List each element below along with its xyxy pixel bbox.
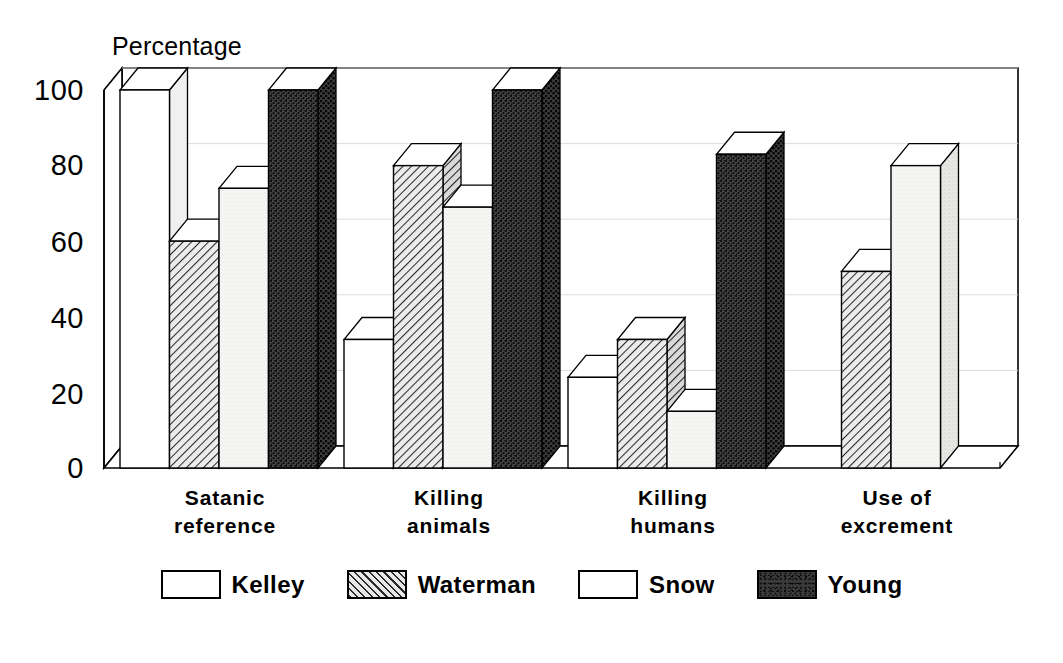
legend-swatch-kelley-icon [161,570,221,599]
bar-young-group-1 [269,68,337,468]
bar-young-group-2 [493,68,561,468]
legend-label-snow: Snow [649,571,715,599]
bar-chart: Percentage 100 80 60 40 20 0 [0,0,1063,663]
legend-label-waterman: Waterman [418,571,536,599]
x-axis-label-line2: animals [319,512,579,540]
legend-swatch-young-icon [757,570,817,599]
x-axis-label-line1: Killing [319,484,579,512]
legend-swatch-waterman-icon [347,570,407,599]
legend-item-young[interactable]: Young [757,570,903,599]
x-axis-label-line1: Killing [543,484,803,512]
bar-snow-group-4 [891,144,959,468]
legend-label-kelley: Kelley [232,571,305,599]
legend-label-young: Young [828,571,903,599]
legend-item-kelley[interactable]: Kelley [161,570,305,599]
legend-swatch-snow-icon [578,570,638,599]
bar-young-group-3 [717,132,785,468]
x-axis-label-line2: excrement [767,512,1027,540]
x-axis-label-3: Killinghumans [543,484,803,539]
plot-area [0,0,1063,663]
x-axis-label-line2: reference [95,512,355,540]
x-axis-label-2: Killinganimals [319,484,579,539]
x-axis-label-line1: Satanic [95,484,355,512]
x-axis-label-line2: humans [543,512,803,540]
x-axis-label-4: Use ofexcrement [767,484,1027,539]
chart-legend: Kelley Waterman Snow Young [0,570,1063,599]
x-axis-label-1: Satanicreference [95,484,355,539]
legend-item-snow[interactable]: Snow [578,570,715,599]
legend-item-waterman[interactable]: Waterman [347,570,536,599]
x-axis-label-line1: Use of [767,484,1027,512]
